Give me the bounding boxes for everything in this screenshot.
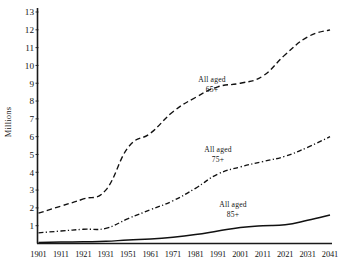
x-tick-label: 1961 [142,250,158,259]
annotation-label-line2: 85+ [227,210,239,219]
y-tick-label: 7 [29,114,34,124]
annotation-label-line1: All aged [219,200,247,209]
x-tick-label: 1981 [187,250,203,259]
y-tick-label: 12 [25,25,35,35]
y-tick-label: 2 [29,203,34,213]
y-tick-label: 11 [25,43,34,53]
x-tick-label: 2001 [232,250,248,259]
y-tick-label: 6 [29,132,34,142]
annotation-label-line1: All aged [204,145,232,154]
x-tick-label: 2011 [255,250,271,259]
chart-plot-area: 12345678910111213 1901191119211931195119… [0,0,340,268]
y-tick-label: 4 [29,168,34,178]
x-tick-label: 1921 [75,250,91,259]
y-tick-label: 9 [29,79,34,89]
x-tick-label: 1901 [30,250,46,259]
x-tick-label: 1951 [120,250,136,259]
x-tick-label: 2031 [299,250,315,259]
annotation-label-line2: 75+ [212,155,224,164]
x-tick-label: 1911 [53,250,69,259]
y-tick-label: 1 [29,221,34,231]
x-tick-label: 2021 [277,250,293,259]
y-tick-label: 13 [25,7,35,17]
annotation-label-line2: 65+ [206,85,218,94]
x-tick-label: 1971 [165,250,181,259]
y-tick-label: 10 [25,61,35,71]
chart-container: Millions 12345678910111213 1901191119211… [0,0,340,268]
annotation-label-line1: All aged [198,75,226,84]
y-tick-label: 8 [29,96,34,106]
series-line-1 [39,30,331,213]
x-tick-label: 2041 [322,250,338,259]
x-tick-label: 1931 [98,250,114,259]
x-tick-label: 1991 [210,250,226,259]
x-axis-tick-labels: 1901191119211931195119611971198119912001… [30,250,338,259]
series-line-2 [39,137,331,233]
y-tick-label: 3 [29,185,34,195]
y-tick-label: 5 [29,150,34,160]
y-axis-tick-labels: 12345678910111213 [25,7,39,231]
chart-annotations: All aged65+All aged75+All aged85+ [198,75,247,219]
chart-series-group [39,30,331,243]
